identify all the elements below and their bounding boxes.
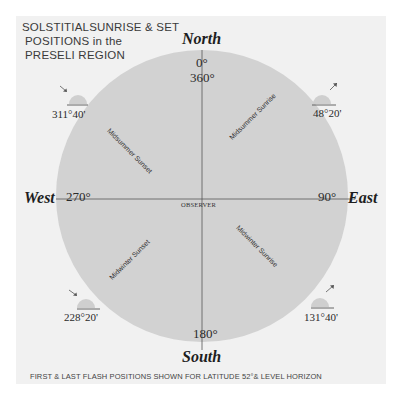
bearing-sw: 228°20'	[64, 311, 98, 323]
diagram-title: SOLSTITIALSUNRISE & SET POSITIONS in the…	[22, 20, 179, 62]
south-label: South	[182, 348, 221, 366]
title-line-1: SOLSTITIALSUNRISE & SET	[22, 20, 179, 34]
east-label: East	[348, 189, 377, 207]
observer-label: OBSERVER	[181, 201, 216, 208]
footer-note: FIRST & LAST FLASH POSITIONS SHOWN FOR L…	[30, 372, 322, 381]
west-label: West	[24, 189, 55, 207]
sun-icon-ne	[312, 83, 337, 105]
bearing-nw: 311°40'	[52, 108, 85, 120]
sun-icon-nw	[60, 86, 88, 105]
north-label: North	[182, 30, 221, 48]
bearing-ne: 48°20'	[313, 107, 341, 119]
west-degree: 270°	[66, 189, 91, 205]
east-degree: 90°	[318, 189, 336, 205]
south-degree: 180°	[193, 326, 218, 342]
north-degree-360: 360°	[190, 70, 215, 86]
title-line-2: POSITIONS in the	[22, 34, 179, 48]
title-line-3: PRESELI REGION	[22, 48, 179, 62]
bearing-se: 131°40'	[304, 311, 338, 323]
north-degree-0: 0°	[196, 55, 208, 71]
